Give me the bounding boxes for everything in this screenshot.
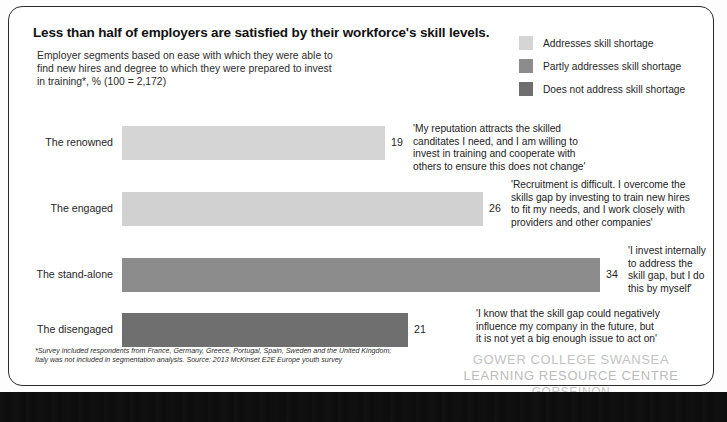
quote-line: influence my company in the future, but [476,321,701,334]
quote-line: skills gap by investing to train new hir… [511,192,714,205]
bar-value-label: 21 [414,323,426,335]
bar-chart: The renowned 19 'My reputation attracts … [9,7,714,386]
bar-value-label: 19 [391,136,403,148]
quote-line: to fit my needs, and I work closely with [511,204,714,217]
quote-line: 'I invest internally [628,245,714,258]
bar-the-disengaged [122,313,408,347]
quote-line: to address the [628,258,714,271]
bar-quote: 'I invest internally to address the skil… [628,245,714,295]
bar-value-label: 34 [606,268,618,280]
footnote-line-survey-countries: *Survey included respondents from France… [35,347,465,356]
quote-line: skill gap, but I do [628,270,714,283]
quote-line: this by myself' [628,283,714,296]
scanner-dark-edge [0,392,727,422]
quote-line: others to ensure this does not change' [413,161,628,174]
bar-category-label: The stand-alone [21,268,113,280]
quote-line: providers and other companies' [511,217,714,230]
quote-line: it is not yet a big enough issue to act … [476,333,701,346]
bar-quote: 'My reputation attracts the skilled cand… [413,123,628,173]
bar-the-renowned [122,126,385,160]
bar-category-label: The renowned [21,136,113,148]
bar-quote: 'Recruitment is difficult. I overcome th… [511,179,714,229]
quote-line: 'Recruitment is difficult. I overcome th… [511,179,714,192]
bar-quote: 'I know that the skill gap could negativ… [476,308,701,346]
bar-the-engaged [122,192,483,226]
quote-line: invest in training and cooperate with [413,148,628,161]
bar-category-label: The engaged [21,202,113,214]
quote-line: 'I know that the skill gap could negativ… [476,308,701,321]
scanned-page: Less than half of employers are satisfie… [0,0,727,422]
bar-category-label: The disengaged [21,323,113,335]
quote-line: 'My reputation attracts the skilled [413,123,628,136]
footnote: *Survey included respondents from France… [35,347,465,366]
bar-value-label: 26 [489,202,501,214]
bar-the-stand-alone [122,258,600,292]
footnote-line-source: Italy was not included in segmentation a… [35,356,465,365]
scanner-noise [0,392,727,422]
chart-card: Less than half of employers are satisfie… [8,6,714,386]
quote-line: canditates I need, and I am willing to [413,136,628,149]
